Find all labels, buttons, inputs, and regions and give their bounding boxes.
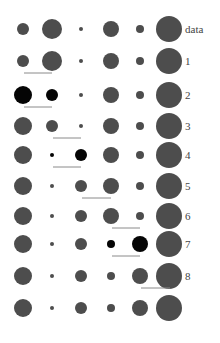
circle-icon [132,300,148,316]
circle-icon [46,89,58,101]
circle-icon [103,147,119,163]
circle-icon [136,57,144,65]
circle-icon [42,51,62,71]
row-2 [14,82,182,108]
circle-icon [136,122,144,130]
circle-icon [14,86,32,104]
row-1 [17,48,182,74]
circle-icon [14,267,32,285]
row-5 [14,173,182,199]
circle-icon [136,151,144,159]
circle-icon [136,212,144,220]
circle-icon [136,91,144,99]
circle-icon [136,182,144,190]
circle-icon [75,302,87,314]
circle-icon [156,231,182,257]
circle-icon [79,59,83,63]
circle-icon [17,55,29,67]
row-label: 3 [185,120,191,132]
sorting-diagram [0,0,220,343]
circle-icon [75,180,87,192]
circle-icon [156,295,182,321]
circle-icon [136,25,144,33]
circle-icon [132,268,148,284]
circle-icon [42,19,62,39]
circle-icon [107,304,115,312]
circle-icon [14,177,32,195]
circle-icon [75,238,87,250]
circle-icon [14,146,32,164]
circle-icon [14,299,32,317]
circle-icon [79,27,83,31]
row-6 [14,203,182,229]
circle-icon [50,242,54,246]
circle-icon [75,149,87,161]
circle-icon [79,124,83,128]
circle-icon [107,240,115,248]
circle-icon [103,87,119,103]
circle-icon [156,113,182,139]
row-label: 8 [185,270,191,282]
circle-icon [103,208,119,224]
row-label: 6 [185,210,191,222]
circle-icon [103,53,119,69]
circle-icon [79,93,83,97]
row-label: 5 [185,180,191,192]
row-label: 1 [185,55,191,67]
circle-icon [156,16,182,42]
row-label: data [185,23,203,35]
row-label: 7 [185,238,191,250]
circle-icon [50,153,54,157]
circle-icon [132,236,148,252]
row-4 [14,142,182,168]
circle-icon [103,21,119,37]
circle-icon [156,48,182,74]
row-8 [14,263,182,289]
row-data [17,16,182,42]
circle-icon [50,274,54,278]
row-final [14,295,182,321]
circle-icon [50,184,54,188]
circle-icon [107,272,115,280]
circle-icon [103,118,119,134]
row-7 [14,231,182,257]
circle-icon [156,173,182,199]
circle-icon [14,235,32,253]
row-label: 2 [185,89,191,101]
circle-icon [156,203,182,229]
circle-icon [14,207,32,225]
circle-icon [156,82,182,108]
circle-icon [156,263,182,289]
row-3 [14,113,182,139]
circle-icon [14,117,32,135]
circle-icon [17,23,29,35]
circle-icon [156,142,182,168]
circle-icon [103,178,119,194]
row-label: 4 [185,149,191,161]
circle-icon [75,210,87,222]
circle-icon [75,270,87,282]
circle-icon [46,120,58,132]
circle-icon [50,214,54,218]
circle-icon [50,306,54,310]
